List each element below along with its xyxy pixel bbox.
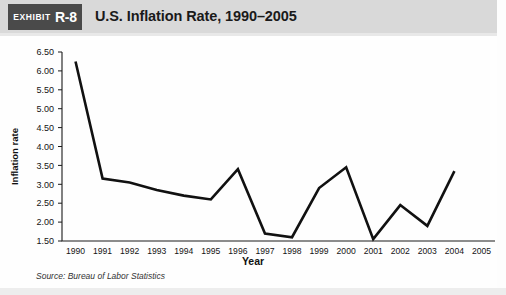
y-tick-label: 3.50 xyxy=(36,161,54,171)
source-note: Source: Bureau of Labor Statistics xyxy=(36,271,165,281)
y-axis-tick-labels: 6.506.005.505.004.504.003.503.002.502.00… xyxy=(36,47,54,246)
y-tick-label: 4.50 xyxy=(36,123,54,133)
axis-lines xyxy=(62,52,495,241)
series-line-inflation xyxy=(76,61,455,239)
exhibit-number: R-8 xyxy=(55,9,77,25)
chart-container: Inflation rate 6.506.005.505.004.504.003… xyxy=(0,33,506,295)
y-tick-label: 6.50 xyxy=(36,47,54,57)
y-tick-label: 6.00 xyxy=(36,66,54,76)
x-axis-title: Year xyxy=(0,255,506,267)
y-tick-label: 3.00 xyxy=(36,180,54,190)
y-tick-label: 2.00 xyxy=(36,217,54,227)
y-tick-label: 4.00 xyxy=(36,142,54,152)
exhibit-tag: EXHIBIT R-8 xyxy=(8,4,82,30)
y-tick-label: 2.50 xyxy=(36,198,54,208)
exhibit-label: EXHIBIT xyxy=(13,12,51,22)
page-edge-right xyxy=(497,0,506,295)
y-axis-ticks xyxy=(58,52,62,241)
y-tick-label: 5.50 xyxy=(36,85,54,95)
y-tick-label: 5.00 xyxy=(36,104,54,114)
page-edge-bottom xyxy=(0,288,506,295)
y-tick-label: 1.50 xyxy=(36,236,54,246)
exhibit-figure: EXHIBIT R-8 U.S. Inflation Rate, 1990–20… xyxy=(0,0,506,295)
page-title: U.S. Inflation Rate, 1990–2005 xyxy=(95,8,297,24)
